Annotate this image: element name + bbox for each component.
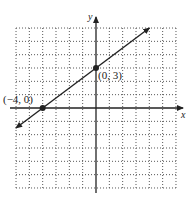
point-label-y-intercept: (0, 3) [98, 69, 122, 82]
point-label-x-intercept: (−4, 0) [3, 93, 33, 106]
coordinate-plane: x y (−4, 0) (0, 3) [0, 0, 192, 202]
data-point [40, 105, 46, 111]
x-axis-label: x [180, 109, 186, 120]
y-axis-label: y [87, 11, 93, 22]
